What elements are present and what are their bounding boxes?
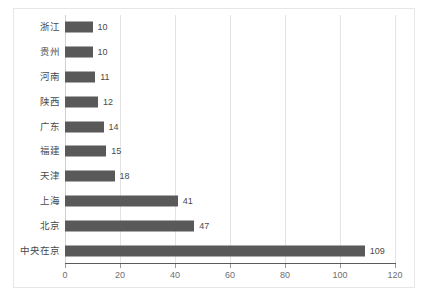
bar-row: 河南11 <box>65 65 395 90</box>
category-label: 北京 <box>40 221 60 231</box>
bar-row: 贵州10 <box>65 40 395 65</box>
x-tick-label-100: 100 <box>332 271 347 280</box>
x-tick-100 <box>340 264 341 268</box>
bar[interactable] <box>65 171 115 182</box>
bar-value-label: 10 <box>98 23 108 32</box>
bar-row: 天津18 <box>65 164 395 189</box>
gridline-x-120 <box>395 15 396 263</box>
plot-area: 浙江10贵州10河南11陕西12广东14福建15天津18上海41北京47中央在京… <box>65 15 395 263</box>
x-tick-0 <box>65 264 66 268</box>
x-tick-20 <box>120 264 121 268</box>
x-tick-60 <box>230 264 231 268</box>
bar[interactable] <box>65 22 93 33</box>
bar[interactable] <box>65 96 98 107</box>
bar-row: 广东14 <box>65 114 395 139</box>
category-label: 广东 <box>40 122 60 132</box>
bar[interactable] <box>65 121 104 132</box>
bar[interactable] <box>65 146 106 157</box>
x-tick-label-60: 60 <box>225 271 235 280</box>
category-label: 福建 <box>40 147 60 157</box>
x-tick-label-80: 80 <box>280 271 290 280</box>
x-tick-label-20: 20 <box>115 271 125 280</box>
bar-value-label: 12 <box>103 97 113 106</box>
x-tick-label-120: 120 <box>387 271 402 280</box>
x-tick-80 <box>285 264 286 268</box>
bar-row: 陕西12 <box>65 89 395 114</box>
bar[interactable] <box>65 47 93 58</box>
bar-value-label: 14 <box>109 122 119 131</box>
bar[interactable] <box>65 195 178 206</box>
category-label: 贵州 <box>40 47 60 57</box>
x-tick-40 <box>175 264 176 268</box>
bar-value-label: 15 <box>111 147 121 156</box>
bar-value-label: 11 <box>100 72 109 81</box>
category-label: 浙江 <box>40 23 60 33</box>
bar[interactable] <box>65 71 95 82</box>
bar-value-label: 41 <box>183 196 193 205</box>
x-tick-label-0: 0 <box>62 271 67 280</box>
bar-value-label: 109 <box>370 246 385 255</box>
x-tick-label-40: 40 <box>170 271 180 280</box>
bar[interactable] <box>65 245 365 256</box>
x-tick-120 <box>395 264 396 268</box>
category-label: 陕西 <box>40 97 60 107</box>
category-label: 上海 <box>40 196 60 206</box>
bar-row: 福建15 <box>65 139 395 164</box>
bar-value-label: 47 <box>199 221 209 230</box>
bar-row: 上海41 <box>65 189 395 214</box>
category-label: 中央在京 <box>20 246 60 256</box>
bar-row: 北京47 <box>65 213 395 238</box>
bar-row: 中央在京109 <box>65 238 395 263</box>
category-label: 河南 <box>40 72 60 82</box>
bar-chart: 浙江10贵州10河南11陕西12广东14福建15天津18上海41北京47中央在京… <box>13 8 415 288</box>
bar-value-label: 10 <box>98 48 108 57</box>
bar-row: 浙江10 <box>65 15 395 40</box>
category-label: 天津 <box>40 171 60 181</box>
bar-value-label: 18 <box>120 172 130 181</box>
bar[interactable] <box>65 220 194 231</box>
